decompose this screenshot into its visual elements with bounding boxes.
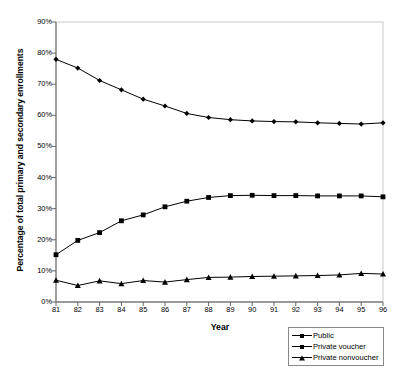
legend-item-private-voucher[interactable]: Private voucher bbox=[291, 341, 379, 352]
square-marker-icon bbox=[291, 341, 313, 352]
data-point-square bbox=[54, 252, 59, 257]
y-axis-tick-label: 30% bbox=[24, 205, 52, 213]
x-axis-tick-label: 93 bbox=[308, 305, 328, 314]
data-point-square bbox=[141, 212, 146, 217]
x-axis-tick-label: 92 bbox=[286, 305, 306, 314]
x-axis-tick-label: 86 bbox=[155, 305, 175, 314]
x-axis-tick-label: 85 bbox=[133, 305, 153, 314]
plot-frame bbox=[56, 22, 383, 302]
data-point-square bbox=[272, 193, 277, 198]
y-axis-tick-label: 90% bbox=[24, 18, 52, 26]
x-axis-tick-label: 87 bbox=[177, 305, 197, 314]
x-axis-tick-label: 91 bbox=[264, 305, 284, 314]
legend-item-public[interactable]: Public bbox=[291, 330, 379, 341]
data-point-square bbox=[359, 194, 364, 199]
y-axis-tick-label: 20% bbox=[24, 236, 52, 244]
legend-item-private-nonvoucher[interactable]: Private nonvoucher bbox=[291, 352, 379, 363]
data-point-square bbox=[206, 195, 211, 200]
data-point-square bbox=[315, 194, 320, 199]
data-point-square bbox=[97, 230, 102, 235]
plot-area bbox=[0, 0, 405, 373]
x-axis-tick-label: 90 bbox=[242, 305, 262, 314]
chart-container: Percentage of total primary and secondar… bbox=[0, 0, 405, 373]
x-axis-tick-label: 81 bbox=[46, 305, 66, 314]
data-point-square bbox=[119, 218, 124, 223]
x-axis-tick-label: 89 bbox=[220, 305, 240, 314]
x-axis-tick-label: 83 bbox=[90, 305, 110, 314]
data-point-square bbox=[184, 199, 189, 204]
legend-label: Private voucher bbox=[313, 342, 366, 352]
y-axis-tick-label: 70% bbox=[24, 80, 52, 88]
x-axis-tick-label: 82 bbox=[68, 305, 88, 314]
data-point-square bbox=[250, 193, 255, 198]
chart-legend: Public Private voucher Private nonvouche… bbox=[288, 327, 384, 366]
y-axis-tick-label: 50% bbox=[24, 142, 52, 150]
triangle-marker-icon bbox=[291, 352, 313, 363]
data-point-square bbox=[293, 193, 298, 198]
diamond-marker-icon bbox=[291, 330, 313, 341]
legend-label: Public bbox=[313, 331, 334, 341]
data-point-square bbox=[381, 194, 386, 199]
data-point-square bbox=[228, 193, 233, 198]
data-point-square bbox=[163, 204, 168, 209]
x-axis-tick-label: 94 bbox=[329, 305, 349, 314]
y-axis-tick-label: 60% bbox=[24, 111, 52, 119]
y-axis-tick-label: 10% bbox=[24, 267, 52, 275]
x-axis-tick-label: 88 bbox=[199, 305, 219, 314]
x-axis-tick-label: 95 bbox=[351, 305, 371, 314]
x-axis-tick-label: 84 bbox=[111, 305, 131, 314]
y-axis-tick-label: 40% bbox=[24, 174, 52, 182]
data-point-square bbox=[337, 194, 342, 199]
x-axis-tick-label: 96 bbox=[373, 305, 393, 314]
legend-label: Private nonvoucher bbox=[313, 353, 378, 363]
y-axis-tick-label: 80% bbox=[24, 49, 52, 57]
data-point-square bbox=[75, 238, 80, 243]
